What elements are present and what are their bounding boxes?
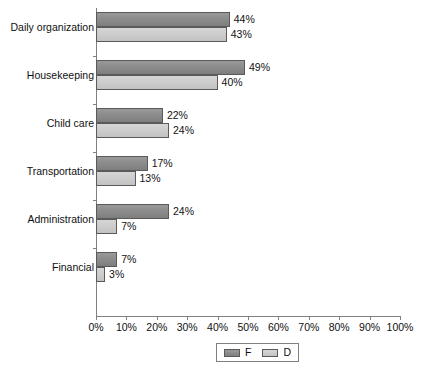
- bar-d[interactable]: [96, 27, 227, 42]
- plot-area: 44%43%49%40%22%24%17%13%24%7%7%3%: [96, 8, 400, 316]
- bar-f[interactable]: [96, 60, 245, 75]
- value-axis-tick: [278, 316, 279, 320]
- value-axis-tick: [339, 316, 340, 320]
- bar-d[interactable]: [96, 171, 136, 186]
- category-label: Financial: [2, 262, 94, 273]
- bar-d[interactable]: [96, 123, 169, 138]
- legend-label-f: F: [245, 347, 251, 358]
- bar-value-label: 24%: [173, 125, 194, 136]
- value-axis-tick: [157, 316, 158, 320]
- bar-d[interactable]: [96, 267, 105, 282]
- value-axis-tick-label: 60%: [268, 322, 289, 333]
- bar-group: 22%24%: [96, 104, 400, 152]
- legend-entry-f[interactable]: F: [224, 347, 251, 358]
- bar-f[interactable]: [96, 108, 163, 123]
- value-axis-tick-label: 10%: [116, 322, 137, 333]
- value-axis-tick: [96, 316, 97, 320]
- value-axis-tick: [400, 316, 401, 320]
- category-label: Housekeeping: [2, 70, 94, 81]
- value-axis-tick: [309, 316, 310, 320]
- bar-group: 24%7%: [96, 200, 400, 248]
- bar-value-label: 22%: [167, 110, 188, 121]
- category-label: Daily organization: [2, 22, 94, 33]
- value-axis-tick-label: 0%: [88, 322, 103, 333]
- bar-f[interactable]: [96, 12, 230, 27]
- bar-value-label: 7%: [121, 221, 136, 232]
- chart-legend: F D: [216, 343, 299, 362]
- value-axis-tick-label: 30%: [177, 322, 198, 333]
- bar-value-label: 17%: [152, 158, 173, 169]
- value-axis-tick: [370, 316, 371, 320]
- value-axis-tick: [187, 316, 188, 320]
- category-label: Child care: [2, 118, 94, 129]
- bar-value-label: 24%: [173, 206, 194, 217]
- bar-f[interactable]: [96, 156, 148, 171]
- bar-group: 44%43%: [96, 8, 400, 56]
- bar-group: 49%40%: [96, 56, 400, 104]
- legend-swatch-d: [262, 349, 278, 357]
- value-axis-tick-label: 70%: [298, 322, 319, 333]
- bar-chart: 44%43%49%40%22%24%17%13%24%7%7%3% Daily …: [0, 0, 425, 376]
- value-axis-tick: [248, 316, 249, 320]
- bar-value-label: 49%: [249, 62, 270, 73]
- legend-label-d: D: [283, 347, 291, 358]
- bar-value-label: 13%: [140, 173, 161, 184]
- bar-value-label: 43%: [231, 29, 252, 40]
- legend-entry-d[interactable]: D: [262, 347, 291, 358]
- bar-d[interactable]: [96, 75, 218, 90]
- bar-f[interactable]: [96, 204, 169, 219]
- value-axis-tick-label: 100%: [387, 322, 414, 333]
- value-axis-tick: [218, 316, 219, 320]
- value-axis-tick-label: 90%: [359, 322, 380, 333]
- bar-group: 7%3%: [96, 248, 400, 296]
- value-axis-tick: [126, 316, 127, 320]
- bar-group: 17%13%: [96, 152, 400, 200]
- legend-swatch-f: [224, 349, 240, 357]
- category-label: Transportation: [2, 166, 94, 177]
- bar-value-label: 44%: [234, 14, 255, 25]
- bar-d[interactable]: [96, 219, 117, 234]
- value-axis-tick-label: 40%: [207, 322, 228, 333]
- bar-value-label: 3%: [109, 269, 124, 280]
- category-label: Administration: [2, 214, 94, 225]
- bar-f[interactable]: [96, 252, 117, 267]
- bar-value-label: 7%: [121, 254, 136, 265]
- value-axis-tick-label: 80%: [329, 322, 350, 333]
- value-axis-tick-label: 50%: [237, 322, 258, 333]
- value-axis-tick-label: 20%: [146, 322, 167, 333]
- bar-value-label: 40%: [222, 77, 243, 88]
